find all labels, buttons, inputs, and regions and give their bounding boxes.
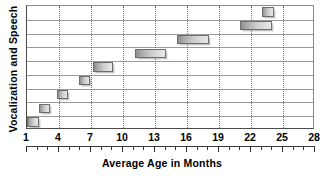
bar-row-5: [93, 62, 113, 71]
x-tick-label-13: 13: [148, 131, 160, 143]
minor-tick: [271, 146, 272, 150]
minor-tick: [165, 146, 166, 150]
major-tick: [58, 146, 59, 152]
x-tick-label-4: 4: [55, 131, 61, 143]
chart-container: Vocalization and Speech 1471013161922252…: [0, 0, 324, 177]
major-tick: [218, 146, 219, 152]
x-tick-label-28: 28: [308, 131, 320, 143]
x-tick-label-19: 19: [212, 131, 224, 143]
bar-row-9: [262, 7, 275, 16]
major-tick: [90, 146, 91, 152]
minor-tick: [261, 146, 262, 150]
x-tick-label-1: 1: [23, 131, 29, 143]
minor-tick: [69, 146, 70, 150]
minor-tick: [229, 146, 230, 150]
x-tick-label-25: 25: [276, 131, 288, 143]
x-tick-label-22: 22: [244, 131, 256, 143]
major-tick: [154, 146, 155, 152]
x-tick-label-16: 16: [180, 131, 192, 143]
major-tick: [250, 146, 251, 152]
x-axis-tick-ruler: [26, 146, 314, 153]
minor-tick: [79, 146, 80, 150]
minor-tick: [101, 146, 102, 150]
minor-tick: [175, 146, 176, 150]
y-axis-title: Vocalization and Speech: [7, 4, 21, 134]
bar-row-3: [57, 90, 68, 99]
bars-layer: [27, 6, 313, 128]
minor-tick: [207, 146, 208, 150]
major-tick: [282, 146, 283, 152]
major-tick: [122, 146, 123, 152]
major-tick: [314, 146, 315, 152]
minor-tick: [197, 146, 198, 150]
minor-tick: [37, 146, 38, 150]
x-tick-label-7: 7: [87, 131, 93, 143]
x-axis-tick-labels: 14710131619222528: [0, 131, 324, 145]
bar-row-6: [135, 49, 166, 58]
plot-area: [26, 5, 314, 129]
bar-row-7: [177, 35, 209, 44]
minor-tick: [133, 146, 134, 150]
minor-tick: [111, 146, 112, 150]
major-tick: [186, 146, 187, 152]
minor-tick: [239, 146, 240, 150]
bar-row-1: [27, 117, 39, 126]
minor-tick: [303, 146, 304, 150]
major-tick: [26, 146, 27, 152]
x-tick-label-10: 10: [116, 131, 128, 143]
bar-row-2: [39, 104, 51, 113]
minor-tick: [143, 146, 144, 150]
minor-tick: [47, 146, 48, 150]
bar-row-4: [79, 76, 90, 85]
minor-tick: [293, 146, 294, 150]
x-axis-title: Average Age in Months: [0, 157, 324, 169]
bar-row-8: [240, 21, 272, 30]
